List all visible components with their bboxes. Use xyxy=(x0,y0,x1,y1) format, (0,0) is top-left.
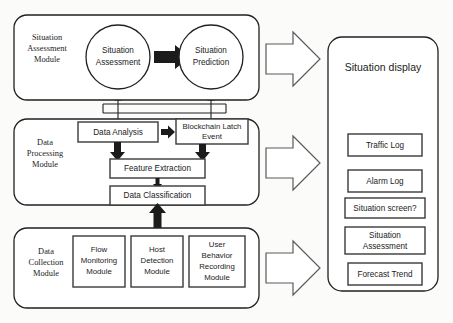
data-collection-module-label-line1: Data xyxy=(38,247,54,256)
situation-prediction-node-label-line1: Situation xyxy=(195,46,227,55)
forecast-trend-label: Forecast Trend xyxy=(357,270,413,279)
data-collection-module-label-line2: Collection xyxy=(29,258,65,267)
situation-assessment-node-label-line1: Situation xyxy=(102,46,134,55)
user-behavior-recording-module-label-line2: Behavior xyxy=(202,251,233,260)
host-detection-module-label-line1: Host xyxy=(149,245,166,254)
diagram-canvas: Situation Assessment Module Situation As… xyxy=(0,0,453,323)
alarm-log-label: Alarm Log xyxy=(366,177,404,186)
user-behavior-recording-module-label-line3: Recording xyxy=(199,262,235,271)
data-processing-module-label-line3: Module xyxy=(32,160,58,169)
situation-assessment-display-label-line1: Situation xyxy=(369,231,401,240)
data-collection-module[interactable]: Data Collection Module Flow Monitoring M… xyxy=(14,228,259,308)
block-arrow-group xyxy=(266,32,320,295)
flow-monitoring-module-label-line1: Flow xyxy=(91,245,108,254)
block-arrow-processing-to-display xyxy=(266,136,320,190)
architecture-diagram: Situation Assessment Module Situation As… xyxy=(0,0,453,323)
block-arrow-assessment-to-display xyxy=(266,32,320,86)
data-collection-module-label-line3: Module xyxy=(33,269,59,278)
situation-screen-label: Situation screen? xyxy=(353,204,417,213)
data-classification-label: Data Classification xyxy=(124,191,192,200)
situation-assessment-module-label-line3: Module xyxy=(34,55,60,64)
feature-extraction-label: Feature Extraction xyxy=(124,164,191,173)
host-detection-module-label-line2: Detection xyxy=(141,256,174,265)
situation-prediction-node-label-line2: Prediction xyxy=(193,58,230,67)
situation-display-panel[interactable]: Situation display Traffic Log Alarm Log … xyxy=(328,37,438,291)
situation-assessment-module[interactable]: Situation Assessment Module Situation As… xyxy=(14,15,259,100)
situation-assessment-node-label-line2: Assessment xyxy=(96,58,141,67)
user-behavior-recording-module-label-line4: Module xyxy=(204,273,230,282)
blockchain-latch-event-label-line2: Event xyxy=(202,132,223,141)
flow-monitoring-module-label-line2: Monitoring xyxy=(81,256,117,265)
situation-assessment-module-label-line1: Situation xyxy=(32,33,63,42)
traffic-log-label: Traffic Log xyxy=(366,141,405,150)
user-behavior-recording-module-label-line1: User xyxy=(209,240,226,249)
host-detection-module-label-line3: Module xyxy=(144,267,170,276)
flow-monitoring-module-label-line3: Module xyxy=(86,267,112,276)
situation-assessment-module-label-line2: Assessment xyxy=(27,44,67,53)
arrow-collection-to-classification xyxy=(149,203,166,230)
data-analysis-label: Data Analysis xyxy=(93,128,143,137)
situation-prediction-node[interactable] xyxy=(179,25,243,89)
situation-assessment-display-label-line2: Assessment xyxy=(363,242,408,251)
blockchain-latch-event-label-line1: Blockchain Latch xyxy=(183,122,242,131)
situation-display-panel-title: Situation display xyxy=(345,61,422,73)
situation-assessment-node[interactable] xyxy=(86,25,150,89)
data-processing-module[interactable]: Data Processing Module Data Analysis Blo… xyxy=(14,119,259,205)
data-processing-module-label-line1: Data xyxy=(37,138,53,147)
data-processing-module-label-line2: Processing xyxy=(27,149,64,158)
block-arrow-collection-to-display xyxy=(266,241,320,295)
